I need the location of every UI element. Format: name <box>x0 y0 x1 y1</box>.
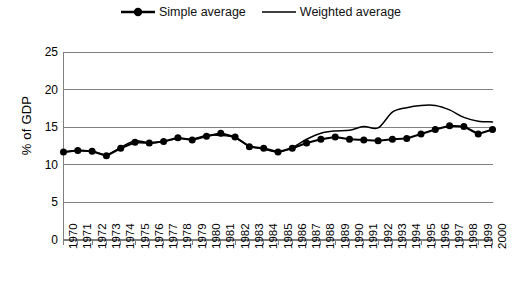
x-tick-label: 1973 <box>111 223 123 249</box>
y-axis-title: % of GDP <box>19 86 34 166</box>
x-tick-label: 1979 <box>197 223 209 249</box>
x-tick-label: 1985 <box>283 223 295 249</box>
x-tick-label: 1972 <box>97 223 109 249</box>
x-tick-label: 1981 <box>225 223 237 249</box>
x-tick-label: 1970 <box>68 223 80 249</box>
x-tick-label: 1994 <box>411 223 423 249</box>
x-tick-label: 1989 <box>340 223 352 249</box>
x-tick-label: 1999 <box>483 223 495 249</box>
x-tick-label: 1975 <box>140 223 152 249</box>
x-tick-label: 1992 <box>383 223 395 249</box>
x-tick-label: 1997 <box>454 223 466 249</box>
x-tick-label: 1982 <box>240 223 252 249</box>
x-tick-label: 1991 <box>368 223 380 249</box>
x-axis-tick-labels: 1970197119721973197419751976197719781979… <box>0 0 522 304</box>
x-tick-label: 1984 <box>268 223 280 249</box>
chart-container: Simple average Weighted average 25201510… <box>0 0 522 304</box>
x-tick-label: 2000 <box>497 223 509 249</box>
x-tick-label: 1995 <box>426 223 438 249</box>
x-tick-label: 1978 <box>182 223 194 249</box>
plot-area: 2520151050 19701971197219731974197519761… <box>0 0 522 304</box>
x-tick-label: 1976 <box>154 223 166 249</box>
x-tick-label: 1996 <box>440 223 452 249</box>
x-tick-label: 1980 <box>211 223 223 249</box>
x-tick-label: 1986 <box>297 223 309 249</box>
x-tick-label: 1977 <box>168 223 180 249</box>
x-tick-label: 1974 <box>125 223 137 249</box>
x-tick-label: 1983 <box>254 223 266 249</box>
x-tick-label: 1988 <box>325 223 337 249</box>
x-tick-label: 1990 <box>354 223 366 249</box>
x-tick-label: 1971 <box>82 223 94 249</box>
x-tick-label: 1998 <box>468 223 480 249</box>
x-tick-label: 1987 <box>311 223 323 249</box>
x-tick-label: 1993 <box>397 223 409 249</box>
